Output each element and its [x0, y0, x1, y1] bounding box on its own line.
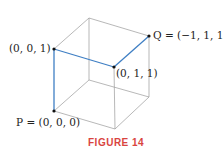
label-p: P = (0, 0, 0) — [16, 116, 80, 128]
label-a: (0, 0, 1) — [9, 42, 51, 54]
figure-caption: FIGURE 14 — [88, 137, 144, 148]
cube-diagram: P = (0, 0, 0) (0, 0, 1) (0, 1, 1) Q = (−… — [0, 0, 223, 152]
label-q: Q = (−1, 1, 1) — [153, 29, 223, 41]
label-b: (0, 1, 1) — [116, 67, 158, 79]
